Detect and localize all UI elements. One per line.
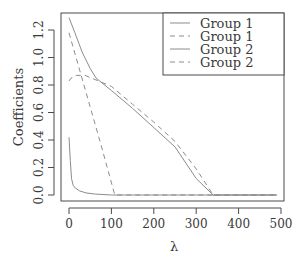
series-group-2-dashed bbox=[69, 75, 277, 195]
y-tick-label: 0.4 bbox=[32, 130, 46, 149]
x-tick-label: 200 bbox=[142, 217, 165, 231]
x-tick-label: 0 bbox=[65, 217, 73, 231]
x-tick-label: 300 bbox=[185, 217, 208, 231]
x-axis: 0100200300400500 bbox=[65, 208, 292, 231]
y-axis: 0.00.20.40.60.81.01.2 bbox=[32, 20, 54, 204]
x-tick-label: 100 bbox=[100, 217, 123, 231]
y-tick-label: 1.2 bbox=[32, 20, 46, 39]
x-axis-title: λ bbox=[170, 239, 178, 254]
y-tick-label: 0.0 bbox=[32, 185, 46, 204]
legend: Group 1Group 1Group 2Group 2 bbox=[163, 13, 284, 75]
coefficient-path-chart: 0100200300400500 0.00.20.40.60.81.01.2 λ… bbox=[0, 0, 303, 258]
y-axis-title: Coefficients bbox=[11, 68, 26, 146]
x-tick-label: 500 bbox=[270, 217, 293, 231]
legend-label: Group 2 bbox=[200, 55, 254, 70]
y-tick-label: 0.6 bbox=[32, 103, 46, 122]
x-tick-label: 400 bbox=[227, 217, 250, 231]
series-group-2-solid bbox=[69, 137, 277, 195]
y-tick-label: 1.0 bbox=[32, 48, 46, 67]
y-tick-label: 0.2 bbox=[32, 158, 46, 177]
y-tick-label: 0.8 bbox=[32, 75, 46, 94]
